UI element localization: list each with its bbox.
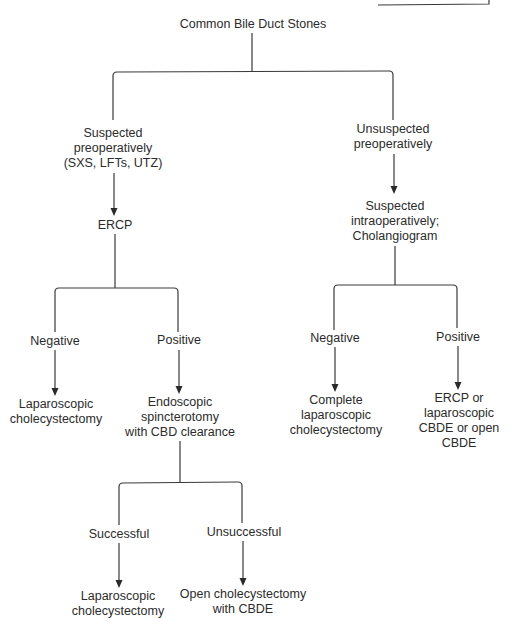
node-label: laparoscopic	[419, 406, 500, 421]
node-endoscopic-sphincterotomy: Endoscopic spincterotomy with CBD cleara…	[125, 395, 235, 440]
node-label: Endoscopic	[125, 395, 235, 410]
node-label: Negative	[310, 331, 359, 346]
node-label: laparoscopic	[290, 408, 382, 423]
node-label: Positive	[436, 330, 480, 345]
node-open-cholecystectomy-with-cbde: Open cholecystectomy with CBDE	[180, 587, 306, 617]
node-label: Laparoscopic	[72, 589, 164, 604]
node-label: spincterotomy	[125, 410, 235, 425]
node-label: preoperatively	[354, 137, 433, 152]
node-unsuspected-preoperatively: Unsuspected preoperatively	[354, 122, 433, 152]
node-label: Laparoscopic	[10, 397, 102, 412]
node-cholangiogram-positive: Positive	[436, 330, 480, 345]
node-label: Unsuspected	[354, 122, 433, 137]
node-label: (SXS, LFTs, UTZ)	[64, 156, 163, 171]
node-label: ERCP or	[419, 391, 500, 406]
arrowhead-icon	[391, 186, 398, 194]
node-label: preoperatively	[64, 141, 163, 156]
node-suspected-intraoperatively-cholangiogram: Suspected intraoperatively; Cholangiogra…	[351, 199, 439, 244]
node-label: Unsuccessful	[207, 525, 281, 540]
node-ercp: ERCP	[98, 218, 133, 233]
arrowhead-icon	[176, 386, 183, 394]
node-label: cholecystectomy	[10, 412, 102, 427]
node-label: intraoperatively;	[351, 214, 439, 229]
node-successful: Successful	[89, 527, 149, 542]
node-ercp-or-cbde: ERCP or laparoscopic CBDE or open CBDE	[419, 391, 500, 451]
connector-endoscopic-bracket	[119, 482, 242, 525]
node-label: Complete	[290, 393, 382, 408]
node-label: Negative	[30, 334, 79, 349]
node-laparoscopic-cholecystectomy-1: Laparoscopic cholecystectomy	[10, 397, 102, 427]
node-label: with CBD clearance	[125, 425, 235, 440]
node-label: cholecystectomy	[290, 423, 382, 438]
node-label: Open cholecystectomy	[180, 587, 306, 602]
connector-ercp-bracket	[55, 288, 178, 332]
arrowhead-icon	[455, 382, 462, 390]
node-root-common-bile-duct-stones: Common Bile Duct Stones	[180, 17, 327, 32]
node-label: cholecystectomy	[72, 604, 164, 619]
page-corner-fragment	[378, 0, 489, 5]
arrowhead-icon	[111, 208, 118, 216]
node-label: with CBDE	[180, 602, 306, 617]
node-label: CBDE	[419, 436, 500, 451]
arrowhead-icon	[332, 384, 339, 392]
connector-root-bracket	[113, 71, 393, 120]
node-label: Suspected	[64, 126, 163, 141]
node-ercp-negative: Negative	[30, 334, 79, 349]
node-unsuccessful: Unsuccessful	[207, 525, 281, 540]
node-label: ERCP	[98, 218, 133, 233]
node-label: Positive	[157, 333, 201, 348]
node-label: Suspected	[351, 199, 439, 214]
connector-cholangiogram-bracket	[334, 285, 457, 330]
node-label: Common Bile Duct Stones	[180, 17, 327, 32]
arrowhead-icon	[52, 388, 59, 396]
arrowhead-icon	[240, 578, 247, 586]
arrowhead-icon	[116, 580, 123, 588]
node-suspected-preoperatively: Suspected preoperatively (SXS, LFTs, UTZ…	[64, 126, 163, 171]
flowchart-canvas: Common Bile Duct Stones Suspected preope…	[0, 0, 513, 627]
node-complete-laparoscopic-cholecystectomy: Complete laparoscopic cholecystectomy	[290, 393, 382, 438]
node-label: CBDE or open	[419, 421, 500, 436]
node-cholangiogram-negative: Negative	[310, 331, 359, 346]
node-laparoscopic-cholecystectomy-2: Laparoscopic cholecystectomy	[72, 589, 164, 619]
node-ercp-positive: Positive	[157, 333, 201, 348]
node-label: Successful	[89, 527, 149, 542]
node-label: Cholangiogram	[351, 229, 439, 244]
